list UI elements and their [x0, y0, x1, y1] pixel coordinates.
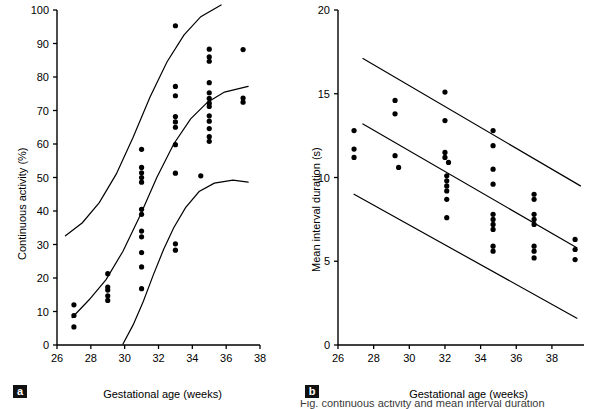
data-point [105, 298, 110, 303]
data-point [351, 128, 356, 133]
centile-curve-lower-centile [354, 194, 577, 318]
data-point [531, 255, 536, 260]
centile-curve-median-centile [363, 124, 577, 248]
data-point [490, 128, 495, 133]
y-tick-label: 10 [37, 306, 49, 318]
y-tick-label: 90 [37, 38, 49, 50]
x-tick-label: 28 [85, 352, 97, 364]
x-tick-label: 32 [152, 352, 164, 364]
data-point [444, 215, 449, 220]
data-point [442, 150, 447, 155]
y-tick-label: 30 [37, 239, 49, 251]
panel-b-label: b [305, 385, 319, 398]
data-point [444, 173, 449, 178]
data-point [139, 170, 144, 175]
x-tick-label: 38 [546, 352, 558, 364]
data-point [139, 250, 144, 255]
data-point [173, 93, 178, 98]
data-point [490, 249, 495, 254]
axis-group: 2628303234363805101520 [318, 4, 584, 364]
data-point [572, 237, 577, 242]
data-point [173, 171, 178, 176]
data-point [207, 47, 212, 52]
y-tick-label: 15 [318, 88, 330, 100]
data-point [139, 234, 144, 239]
y-tick-label: 40 [37, 205, 49, 217]
x-tick-label: 38 [254, 352, 266, 364]
data-point [207, 104, 212, 109]
data-point [490, 217, 495, 222]
y-tick-label: 5 [324, 255, 330, 267]
data-point [490, 143, 495, 148]
axis-group: 262830323436380102030405060708090100 [31, 4, 266, 364]
data-point [139, 165, 144, 170]
data-point [444, 197, 449, 202]
y-tick-label: 70 [37, 105, 49, 117]
data-point [351, 155, 356, 160]
data-points [71, 23, 245, 329]
panel-a-y-axis-title: Continuous activity (%) [16, 148, 28, 261]
data-point [490, 244, 495, 249]
data-point [207, 96, 212, 101]
data-point [71, 324, 76, 329]
data-point [139, 264, 144, 269]
data-point [240, 47, 245, 52]
data-point [139, 147, 144, 152]
y-tick-label: 50 [37, 172, 49, 184]
data-point [139, 175, 144, 180]
y-tick-label: 0 [324, 339, 330, 351]
data-point [105, 271, 110, 276]
x-tick-label: 36 [510, 352, 522, 364]
data-point [207, 90, 212, 95]
data-point [139, 180, 144, 185]
data-point [490, 167, 495, 172]
caption-strip: Fig. continuous activity and mean interv… [0, 400, 592, 409]
data-point [139, 286, 144, 291]
centile-curve-lower-centile [123, 180, 248, 344]
panel-b: b Gestational age (weeks) Mean interval … [296, 0, 592, 409]
data-point [207, 119, 212, 124]
data-point [490, 182, 495, 187]
x-tick-label: 32 [439, 352, 451, 364]
panel-b-x-axis-title: Gestational age (weeks) [356, 388, 581, 400]
data-point [198, 173, 203, 178]
data-point [531, 244, 536, 249]
data-point [173, 23, 178, 28]
data-point [139, 212, 144, 217]
panel-b-y-axis-title: Mean interval duration (s) [310, 147, 322, 272]
data-point [105, 287, 110, 292]
data-point [207, 126, 212, 131]
data-point [392, 111, 397, 116]
data-point [173, 248, 178, 253]
caption-partial: Fig. continuous activity and mean interv… [300, 400, 545, 409]
y-tick-label: 100 [31, 4, 49, 16]
x-tick-label: 28 [368, 352, 380, 364]
data-point [173, 119, 178, 124]
y-tick-label: 60 [37, 138, 49, 150]
y-tick-label: 20 [37, 272, 49, 284]
centile-curve-median-centile [72, 86, 248, 317]
data-point [531, 212, 536, 217]
data-point [442, 155, 447, 160]
data-point [207, 80, 212, 85]
data-point [173, 241, 178, 246]
data-point [531, 197, 536, 202]
data-point [531, 249, 536, 254]
data-point [572, 247, 577, 252]
data-point [442, 89, 447, 94]
y-tick-label: 20 [318, 4, 330, 16]
data-point [173, 114, 178, 119]
data-point [71, 313, 76, 318]
data-point [531, 222, 536, 227]
y-tick-label: 80 [37, 71, 49, 83]
data-point [446, 160, 451, 165]
data-point [173, 125, 178, 130]
data-point [531, 192, 536, 197]
x-tick-label: 30 [403, 352, 415, 364]
data-point [207, 59, 212, 64]
x-tick-label: 34 [186, 352, 198, 364]
data-point [139, 229, 144, 234]
data-points [351, 89, 577, 262]
data-point [207, 113, 212, 118]
x-tick-label: 36 [220, 352, 232, 364]
